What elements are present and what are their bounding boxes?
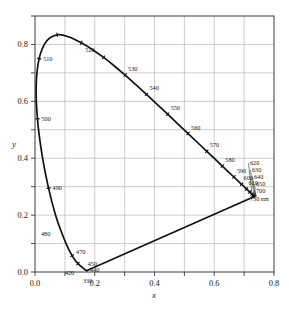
wavelength-label-420: 420 [65, 269, 74, 276]
chromaticity-diagram-figure: 5205305405505605705805906006106206306406… [0, 0, 289, 309]
wavelength-label-540: 540 [149, 84, 158, 91]
wavelength-label-470: 470 [76, 248, 85, 255]
wavelength-label-560: 560 [191, 124, 200, 131]
wavelength-label-570: 570 [210, 141, 219, 148]
wavelength-label-700: 700 [256, 187, 265, 194]
y-tick-label-0.6: 0.6 [18, 97, 28, 106]
wavelength-label-650: 650 [256, 180, 265, 187]
x-tick-label-0.6: 0.6 [209, 279, 219, 288]
y-tick-label-0.8: 0.8 [18, 40, 28, 49]
wavelength-label-550: 550 [171, 104, 180, 111]
wavelength-label-510: 510 [43, 55, 52, 62]
wavelength-label-440: 440 [90, 266, 99, 273]
y-tick-label-0.0: 0.0 [18, 268, 28, 277]
y-axis-title: y [11, 139, 16, 149]
x-axis-title: x [151, 290, 156, 300]
wavelength-label-500: 500 [41, 115, 50, 122]
chart-svg: 5205305405505605705805906006106206306406… [0, 0, 289, 309]
wavelength-label-590: 590 [237, 167, 246, 174]
wavelength-label-730-nm: 730 nm [250, 195, 269, 202]
wavelength-label-630: 630 [252, 166, 261, 173]
x-tick-label-0.4: 0.4 [149, 279, 160, 288]
x-axis-tick-labels: 0.00.20.40.60.8 [30, 279, 279, 288]
wavelength-label-530: 530 [128, 65, 137, 72]
y-tick-label-0.2: 0.2 [18, 211, 28, 220]
wavelength-label-480: 480 [41, 230, 50, 237]
x-tick-label-0.2: 0.2 [90, 279, 100, 288]
wavelength-label-640: 640 [254, 173, 263, 180]
y-axis-tick-labels: 0.00.20.40.60.8 [18, 40, 29, 277]
wavelength-label-520: 520 [85, 46, 94, 53]
x-tick-label-0.8: 0.8 [269, 279, 279, 288]
wavelength-label-490: 490 [53, 184, 62, 191]
x-tick-label-0.0: 0.0 [30, 279, 40, 288]
wavelength-label-620: 620 [250, 159, 259, 166]
wavelength-label-580: 580 [225, 156, 234, 163]
y-tick-label-0.4: 0.4 [18, 154, 29, 163]
